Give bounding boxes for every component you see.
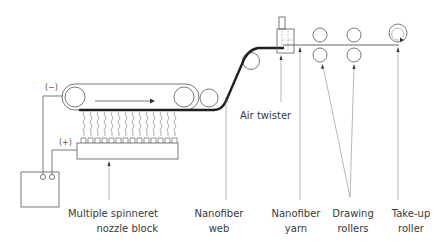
take-up-roller: [389, 24, 407, 42]
take-up-roller-label: Take-up roller: [392, 206, 430, 236]
power-supply: [21, 172, 59, 207]
negative-polarity-label: (−): [45, 83, 58, 92]
spinneret-label-line2: nozzle block: [62, 221, 158, 236]
nozzles: [81, 138, 177, 143]
web-label-line2: web: [195, 221, 244, 236]
takeup-label-line2: roller: [392, 221, 430, 236]
drawing-label-line1: Drawing: [332, 206, 374, 221]
web-label-line1: Nanofiber: [195, 206, 244, 221]
drawing-rollers-label: Drawing rollers: [332, 206, 374, 236]
yarn-label-line2: yarn: [272, 221, 321, 236]
yarn-label-line1: Nanofiber: [272, 206, 321, 221]
negative-wire: [43, 96, 63, 174]
collector-belt: [62, 84, 199, 110]
positive-wire: [52, 150, 77, 174]
pointer-arrows: [108, 47, 400, 200]
guide-roller: [200, 89, 218, 107]
upper-guide-roller: [243, 53, 260, 70]
air-twister-label: Air twister: [240, 108, 291, 123]
nanofiber-yarn-label: Nanofiber yarn: [272, 206, 321, 236]
drawing-label-line2: rollers: [332, 221, 374, 236]
fiber-jets: [83, 112, 176, 136]
takeup-label-line1: Take-up: [392, 206, 430, 221]
spinneret-label: Multiple spinneret nozzle block: [62, 206, 158, 236]
nozzle-block: [77, 143, 178, 159]
spinneret-label-line1: Multiple spinneret: [62, 206, 158, 221]
positive-polarity-label: (+): [59, 138, 72, 147]
nanofiber-web-label: Nanofiber web: [195, 206, 244, 236]
